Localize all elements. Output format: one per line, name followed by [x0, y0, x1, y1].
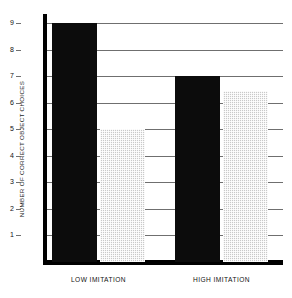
bar-solid-black-bar-1	[52, 23, 97, 262]
x-axis-category-label: LOW IMITATION	[39, 276, 159, 283]
y-axis-tick-mark	[16, 235, 21, 236]
y-axis-tick-mark	[16, 156, 21, 157]
y-axis-tick-mark	[16, 209, 21, 210]
y-axis-tick-label: 3	[0, 178, 14, 185]
bar-solid-black-bar-2	[175, 76, 220, 262]
y-axis-tick-label: 2	[0, 204, 14, 211]
bar-gray-hatched-bar-1	[100, 129, 145, 262]
y-axis-tick-mark	[16, 103, 21, 104]
y-axis-tick-label: 8	[0, 45, 14, 52]
y-axis-tick-mark	[16, 129, 21, 130]
y-axis-tick-label: 6	[0, 98, 14, 105]
y-axis-tick-label: 7	[0, 72, 14, 79]
y-axis-tick-label: 9	[0, 18, 14, 25]
y-axis-tick-label: 4	[0, 151, 14, 158]
y-axis-tick-mark	[16, 23, 21, 24]
y-axis-tick-label: 1	[0, 231, 14, 238]
bar-gray-hatched-bar-2	[223, 91, 268, 262]
y-axis-tick-mark	[16, 50, 21, 51]
plot-area	[47, 15, 283, 262]
y-axis-tick-mark	[16, 76, 21, 77]
y-axis-tick-mark	[16, 182, 21, 183]
y-axis-tick-label: 5	[0, 125, 14, 132]
x-axis-category-label: HIGH IMITATION	[162, 276, 282, 283]
bar-chart: NUMBER OF CORRECT OBJECT CHOICES 1234567…	[0, 0, 292, 298]
y-axis-title: NUMBER OF CORRECT OBJECT CHOICES	[14, 0, 28, 298]
